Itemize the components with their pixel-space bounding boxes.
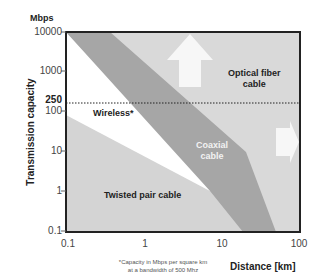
footnote-line2: at a bandwidth of 500 Mhz <box>103 266 223 274</box>
y-tick-250: 250 <box>45 95 62 105</box>
x-tick-100: 100 <box>291 239 308 249</box>
footnote: *Capacity in Mbps per square km at a ban… <box>103 258 223 274</box>
coaxial-cable-label-line1: Coaxial <box>196 140 228 151</box>
y-tick-10000: 10000 <box>34 27 62 37</box>
y-tick-10: 10 <box>51 146 62 156</box>
optical-fiber-label-line1: Optical fiber <box>228 68 281 79</box>
x-tick-0-1: 0.1 <box>61 239 75 249</box>
wireless-label: Wireless* <box>93 108 133 119</box>
optical-fiber-label: Optical fiber cable <box>228 68 281 90</box>
y-tick-1000: 1000 <box>40 66 62 76</box>
twisted-pair-label: Twisted pair cable <box>104 190 181 201</box>
y-axis-title: Transmission capacity <box>25 78 36 185</box>
x-tick-10: 10 <box>216 239 227 249</box>
y-tick-0-1: 0.1 <box>48 226 62 236</box>
optical-fiber-label-line2: cable <box>228 79 281 90</box>
x-tick-1: 1 <box>142 239 148 249</box>
footnote-line1: *Capacity in Mbps per square km <box>103 258 223 266</box>
coaxial-cable-label: Coaxial cable <box>196 140 228 162</box>
coaxial-cable-label-line2: cable <box>196 151 228 162</box>
y-tick-1: 1 <box>56 186 62 196</box>
x-axis-title: Distance [km] <box>230 261 296 272</box>
chart-plot <box>0 0 324 280</box>
y-axis-unit: Mbps <box>30 13 54 23</box>
y-tick-100: 100 <box>45 106 62 116</box>
